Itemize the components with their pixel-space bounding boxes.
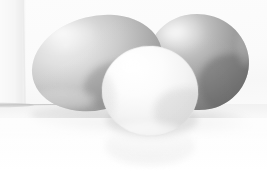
photo-canvas: [0, 0, 267, 171]
still-life-illustration: [0, 0, 267, 171]
lighting-wash: [0, 0, 267, 171]
